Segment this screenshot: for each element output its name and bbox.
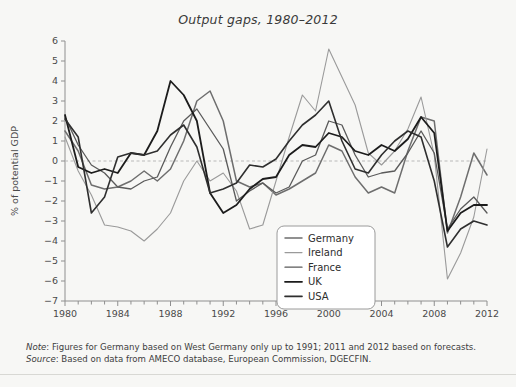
y-tick-label: 3 bbox=[52, 95, 58, 106]
series-line-uk bbox=[65, 81, 487, 231]
x-tick-label: 1996 bbox=[264, 308, 288, 319]
legend-label-ireland[interactable]: Ireland bbox=[308, 247, 343, 258]
legend-label-usa[interactable]: USA bbox=[308, 291, 329, 302]
y-tick-label: 5 bbox=[52, 55, 58, 66]
y-tick-label: −6 bbox=[44, 275, 58, 286]
bottom-divider bbox=[0, 374, 516, 375]
source-text: : Based on data from AMECO database, Eur… bbox=[56, 354, 371, 364]
line-chart: 6543210−1−2−3−4−5−6−71980198419881992199… bbox=[0, 30, 516, 320]
y-tick-label: −3 bbox=[44, 215, 58, 226]
y-tick-label: 0 bbox=[52, 155, 58, 166]
series-layer bbox=[65, 49, 487, 279]
y-tick-label: 1 bbox=[52, 135, 58, 146]
x-tick-label: 2000 bbox=[317, 308, 341, 319]
note-label: Note bbox=[26, 342, 46, 352]
legend-label-france[interactable]: France bbox=[308, 262, 341, 273]
footnote-source: Source: Based on data from AMECO databas… bbox=[26, 353, 496, 365]
note-text: : Figures for Germany based on West Germ… bbox=[46, 342, 476, 352]
series-line-france bbox=[65, 109, 487, 229]
y-tick-label: −4 bbox=[44, 235, 58, 246]
footnote-block: Note: Figures for Germany based on West … bbox=[26, 341, 496, 366]
x-tick-label: 2004 bbox=[369, 308, 393, 319]
plot-area: 6543210−1−2−3−4−5−6−71980198419881992199… bbox=[0, 30, 516, 320]
x-tick-label: 2012 bbox=[475, 308, 499, 319]
page-title: Output gaps, 1980–2012 bbox=[0, 12, 516, 27]
x-tick-label: 1980 bbox=[53, 308, 77, 319]
legend-label-uk[interactable]: UK bbox=[308, 276, 322, 287]
y-tick-label: −7 bbox=[44, 295, 58, 306]
x-tick-label: 2008 bbox=[422, 308, 446, 319]
legend-label-germany[interactable]: Germany bbox=[308, 233, 354, 244]
series-line-germany bbox=[65, 91, 487, 233]
figure-container: Output gaps, 1980–2012 6543210−1−2−3−4−5… bbox=[0, 0, 516, 387]
x-tick-label: 1992 bbox=[211, 308, 235, 319]
y-tick-label: 2 bbox=[52, 115, 58, 126]
series-line-usa bbox=[65, 101, 487, 247]
y-tick-label: 4 bbox=[52, 75, 58, 86]
y-axis-title-text: % of potential GDP bbox=[9, 126, 20, 216]
y-tick-label: 6 bbox=[52, 35, 58, 46]
y-tick-label: −1 bbox=[44, 175, 58, 186]
x-tick-label: 1988 bbox=[158, 308, 182, 319]
y-tick-label: −2 bbox=[44, 195, 58, 206]
y-tick-label: −5 bbox=[44, 255, 58, 266]
footnote-note: Note: Figures for Germany based on West … bbox=[26, 341, 496, 353]
series-line-ireland bbox=[65, 49, 487, 279]
chart-legend[interactable]: GermanyIrelandFranceUKUSA bbox=[277, 226, 375, 309]
y-axis-title: % of potential GDP bbox=[9, 126, 20, 216]
x-tick-label: 1984 bbox=[106, 308, 130, 319]
source-label: Source bbox=[26, 354, 56, 364]
